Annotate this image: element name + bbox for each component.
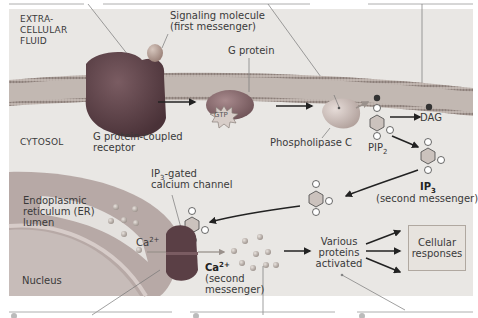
ip3-gated-base: IP	[151, 168, 160, 179]
various-line2: proteins	[314, 247, 364, 258]
cellular-line2: responses	[412, 248, 463, 259]
dag-molecule	[426, 104, 432, 110]
dag-label: DAG	[420, 112, 442, 123]
gpcr-label: G protein-coupled receptor	[93, 131, 183, 153]
cellular-responses-text: Cellular responses	[412, 237, 463, 259]
gpcr-line2: receptor	[93, 142, 183, 153]
ip3-label: IP3	[418, 181, 438, 192]
signaling-molecule-line2: (first messenger)	[170, 21, 265, 32]
ca-cyto-desc2: messenger)	[205, 284, 264, 295]
gpcr-line1: G protein-coupled	[93, 131, 183, 142]
pip2-base: PIP	[368, 142, 383, 153]
nucleus-label: Nucleus	[22, 275, 62, 286]
phospholipase-c-label: Phospholipase C	[270, 137, 352, 148]
pip2-sub: 2	[383, 148, 387, 156]
ca-er-sup: 2+	[149, 236, 159, 244]
er-line1: Endoplasmic	[23, 195, 95, 206]
ip3-base: IP	[420, 181, 431, 192]
signaling-molecule	[147, 44, 163, 62]
signaling-molecule-line1: Signaling molecule	[170, 10, 265, 21]
ca-cytosol-label: Ca2+ (second messenger)	[205, 262, 264, 295]
gpcr-receptor	[86, 52, 166, 137]
er-line2: reticulum (ER)	[23, 206, 95, 217]
ca-cyto-base: Ca	[205, 262, 219, 273]
ip3-gated-rest: -gated	[164, 168, 197, 179]
ca-er-base: Ca	[136, 237, 149, 248]
ip3-gated-channel-label: IP3-gated calcium channel	[151, 168, 233, 190]
various-line3: activated	[314, 258, 364, 269]
extracellular-line1: EXTRA-	[20, 14, 67, 25]
cellular-line1: Cellular	[412, 237, 463, 248]
er-line3: lumen	[23, 217, 95, 228]
ip3-gated-line1: IP3-gated	[151, 168, 233, 179]
ca-cyto-sup: 2+	[219, 261, 230, 269]
ca-cyto-desc1: (second	[205, 273, 264, 284]
ca-er-label: Ca2+	[136, 237, 159, 248]
extracellular-line2: CELLULAR	[20, 25, 67, 36]
extracellular-line3: FLUID	[20, 36, 67, 47]
signaling-molecule-label: Signaling molecule (first messenger)	[170, 10, 265, 32]
extracellular-fluid-label: EXTRA- CELLULAR FLUID	[20, 14, 67, 47]
g-protein-label: G protein	[228, 45, 274, 56]
various-proteins-label: Various proteins activated	[314, 236, 364, 269]
ip3-desc-label: (second messenger)	[376, 193, 478, 204]
pip2-label: PIP2	[368, 142, 387, 153]
various-line1: Various	[314, 236, 364, 247]
cellular-responses-box: Cellular responses	[408, 225, 466, 271]
ca-cytosol-title: Ca2+	[205, 262, 264, 273]
gtp-label: GTP	[214, 110, 228, 121]
calcium-channel-line: calcium channel	[151, 179, 233, 190]
er-lumen-label: Endoplasmic reticulum (ER) lumen	[23, 195, 95, 228]
cytosol-label: CYTOSOL	[20, 137, 63, 148]
